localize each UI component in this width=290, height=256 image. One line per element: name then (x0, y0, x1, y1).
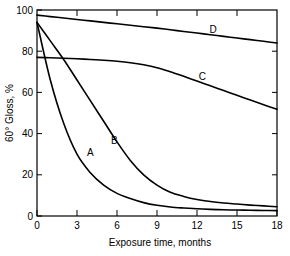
y-tick-label-100: 100 (16, 5, 33, 16)
line-chart: 0 20 40 60 80 100 0 3 6 9 12 15 18 Expos… (0, 0, 290, 256)
y-tick-label-60: 60 (22, 87, 34, 98)
x-tick-label-12: 12 (191, 220, 203, 231)
x-axis-title: Exposure time, months (109, 237, 211, 248)
x-tick-label-18: 18 (271, 220, 283, 231)
curve-label-B: B (111, 135, 118, 146)
y-tick-label-0: 0 (27, 211, 33, 222)
x-tick-label-6: 6 (114, 220, 120, 231)
x-tick-label-3: 3 (74, 220, 80, 231)
y-tick-label-80: 80 (22, 46, 34, 57)
y-tick-labels: 0 20 40 60 80 100 (16, 5, 33, 222)
x-tick-label-15: 15 (231, 220, 243, 231)
y-tick-label-20: 20 (22, 169, 34, 180)
curve-label-A: A (87, 147, 94, 158)
curve-label-C: C (199, 71, 206, 82)
curve-label-D: D (209, 24, 216, 35)
y-tick-label-40: 40 (22, 128, 34, 139)
x-tick-label-9: 9 (154, 220, 160, 231)
x-tick-labels: 0 3 6 9 12 15 18 (34, 220, 283, 231)
y-axis-title: 60° Gloss, % (4, 84, 15, 142)
chart-figure: 0 20 40 60 80 100 0 3 6 9 12 15 18 Expos… (0, 0, 290, 256)
x-tick-label-0: 0 (34, 220, 40, 231)
